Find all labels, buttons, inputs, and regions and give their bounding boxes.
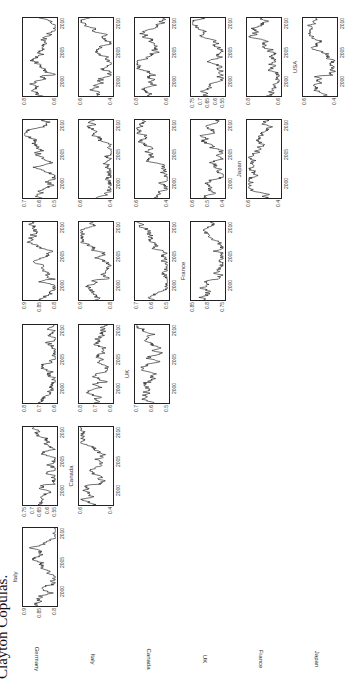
- panel-italy-uk: 0.80.70.6200020052010: [78, 326, 128, 422]
- panel-france-japan: Japan0.60.4200020052010: [246, 121, 296, 217]
- plot-area: [190, 17, 226, 97]
- x-tick-label: 2010: [59, 18, 65, 29]
- column-title-canada: Canada: [68, 428, 74, 524]
- x-tick-label: 2010: [59, 120, 65, 131]
- plot-area: [246, 119, 282, 199]
- y-tick-label: 0.6: [45, 507, 50, 524]
- x-tick-label: 2005: [227, 149, 233, 160]
- x-tick-label: 2005: [283, 149, 289, 160]
- x-tick-label: 2010: [227, 222, 233, 233]
- plot-area: [134, 119, 170, 199]
- plot-area: [78, 221, 114, 301]
- panel-uk-usa: 0.750.70.650.60.55200020052010: [190, 19, 240, 115]
- x-tick-label: 2010: [171, 120, 177, 131]
- x-tick-label: 2005: [171, 354, 177, 365]
- y-tick-label: 0.4: [276, 200, 281, 217]
- plot-area: [78, 426, 114, 506]
- x-tick-label: 2000: [115, 76, 121, 87]
- y-tick-label: 0.75: [22, 507, 27, 524]
- plot-area: [78, 119, 114, 199]
- y-tick-label: 0.6: [213, 98, 218, 115]
- x-tick-label: 2010: [115, 18, 121, 29]
- x-tick-label: 2010: [171, 325, 177, 336]
- y-tick-label: 0.5: [205, 200, 210, 217]
- x-tick-label: 2000: [171, 280, 177, 291]
- series-line: [23, 18, 57, 96]
- y-tick-label: 0.65: [37, 507, 42, 524]
- x-tick-label: 2000: [115, 280, 121, 291]
- y-tick-label: 0.6: [190, 200, 195, 217]
- plot-area: [134, 324, 170, 404]
- y-tick-label: 0.6: [164, 98, 169, 115]
- x-tick-label: 2005: [171, 47, 177, 58]
- series-line: [79, 222, 113, 300]
- panel-france-usa: 0.80.6200020052010: [246, 19, 296, 115]
- panel-canada-uk: UK0.70.60.5200020052010: [134, 326, 184, 422]
- x-tick-label: 2005: [171, 149, 177, 160]
- y-tick-label: 0.55: [52, 507, 57, 524]
- y-tick-label: 0.8: [22, 405, 27, 422]
- x-tick-label: 2005: [171, 251, 177, 262]
- panel-germany-canada: 0.750.70.650.60.55200020052010: [22, 428, 72, 524]
- y-tick-label: 0.7: [134, 405, 139, 422]
- x-tick-label: 2005: [59, 354, 65, 365]
- row-label-france: France: [258, 639, 264, 679]
- y-tick-label: 0.8: [246, 98, 251, 115]
- x-tick-label: 2010: [171, 18, 177, 29]
- x-tick-label: 2000: [283, 178, 289, 189]
- x-tick-label: 2000: [59, 586, 65, 597]
- plot-area: [22, 119, 58, 199]
- y-tick-label: 0.8: [78, 405, 83, 422]
- y-tick-label: 0.6: [108, 405, 113, 422]
- y-tick-label: 0.85: [37, 608, 42, 625]
- y-tick-label: 0.6: [78, 200, 83, 217]
- panel-germany-japan: 0.70.60.5200020052010: [22, 121, 72, 217]
- x-tick-label: 2005: [115, 149, 121, 160]
- y-tick-label: 0.6: [276, 98, 281, 115]
- x-tick-label: 2010: [227, 120, 233, 131]
- x-tick-label: 2010: [283, 18, 289, 29]
- y-tick-label: 0.75: [190, 98, 195, 115]
- panel-germany-italy: Italy0.90.850.8200020052010: [22, 529, 72, 625]
- x-tick-label: 2010: [115, 120, 121, 131]
- plot-area: [22, 426, 58, 506]
- x-tick-label: 2000: [227, 178, 233, 189]
- y-tick-label: 0.7: [37, 405, 42, 422]
- x-tick-label: 2010: [115, 325, 121, 336]
- panel-uk-france: France0.850.80.75200020052010: [190, 223, 240, 319]
- y-tick-label: 0.5: [164, 405, 169, 422]
- x-tick-label: 2010: [171, 222, 177, 233]
- row-label-canada: Canada: [146, 639, 152, 679]
- series-line: [191, 18, 225, 96]
- panel-canada-france: 0.70.60.5200020052010: [134, 223, 184, 319]
- plot-area: [302, 17, 338, 97]
- y-tick-label: 0.6: [52, 405, 57, 422]
- y-tick-label: 0.7: [93, 405, 98, 422]
- y-tick-label: 0.4: [108, 507, 113, 524]
- y-tick-label: 0.8: [52, 302, 57, 319]
- y-tick-label: 0.8: [108, 302, 113, 319]
- x-tick-label: 2010: [283, 120, 289, 131]
- x-tick-label: 2000: [227, 280, 233, 291]
- row-label-japan: Japan: [314, 639, 320, 679]
- panel-canada-japan: 0.60.4200020052010: [134, 121, 184, 217]
- x-tick-label: 2000: [339, 76, 345, 87]
- series-line: [135, 325, 169, 403]
- column-title-france: France: [180, 223, 186, 319]
- plot-area: [190, 119, 226, 199]
- x-tick-label: 2010: [115, 427, 121, 438]
- x-tick-label: 2010: [59, 325, 65, 336]
- x-tick-label: 2000: [59, 383, 65, 394]
- series-line: [135, 120, 169, 198]
- y-tick-label: 0.8: [205, 302, 210, 319]
- y-tick-label: 0.6: [246, 200, 251, 217]
- y-tick-label: 0.6: [52, 98, 57, 115]
- series-line: [23, 222, 57, 300]
- x-tick-label: 2000: [115, 178, 121, 189]
- panel-italy-france: 0.90.8200020052010: [78, 223, 128, 319]
- y-tick-label: 0.6: [78, 98, 83, 115]
- y-tick-label: 0.4: [164, 200, 169, 217]
- column-title-italy: Italy: [12, 529, 18, 625]
- y-tick-label: 0.65: [205, 98, 210, 115]
